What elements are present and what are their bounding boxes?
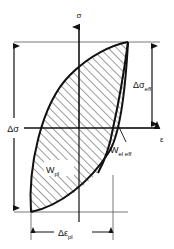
plastic-work-label-group: Wpl [44,160,74,177]
delta-sigma-dimension: Δσ [2,46,24,208]
w-el-eff-label: Wel eff [110,145,132,157]
stress-axis-label: σ [77,11,82,20]
delta-epsilon-pl-dimension: Δεpl [33,223,111,241]
delta-sigma-label: Δσ [7,124,19,134]
delta-sigma-eff-dimension: Δσeff [133,46,152,124]
delta-sigma-eff-label: Δσeff [133,80,151,92]
hysteresis-loop-svg: Δσ Δσeff Δεpl Wpl [0,0,174,249]
strain-axis-label: ε [160,135,164,144]
hysteresis-loop-figure: Δσ Δσeff Δεpl Wpl [0,0,174,249]
